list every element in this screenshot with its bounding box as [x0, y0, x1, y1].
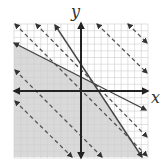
inequality-graph: y x — [0, 0, 162, 162]
objective-line-3 — [97, 24, 147, 73]
x-axis-label: x — [151, 88, 160, 107]
objective-line-4 — [128, 24, 147, 43]
y-axis-label: y — [70, 2, 81, 21]
